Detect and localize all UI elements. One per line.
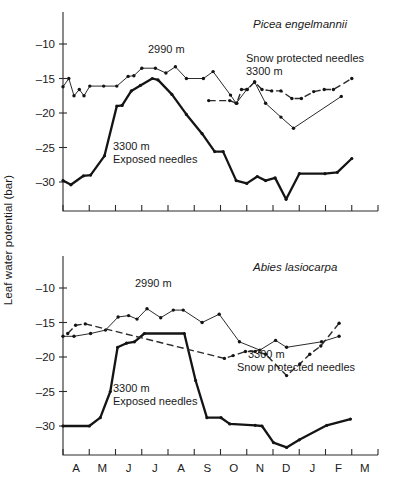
data-point-3 xyxy=(78,88,81,91)
data-point-5 xyxy=(125,342,128,345)
data-point-10 xyxy=(156,78,159,81)
y-tick-label-25: –25 xyxy=(36,386,55,398)
data-point-9 xyxy=(290,97,293,100)
x-axis-label-8: D xyxy=(282,462,290,474)
x-axis-label-6: O xyxy=(229,462,238,474)
data-point-22 xyxy=(279,115,282,118)
series-3300-m-snow-protected-needles xyxy=(207,77,353,105)
series-line xyxy=(63,67,341,128)
data-point-3 xyxy=(223,357,226,360)
data-point-4 xyxy=(246,88,249,91)
data-point-23 xyxy=(323,172,326,175)
data-point-16 xyxy=(285,346,288,349)
data-point-16 xyxy=(211,70,214,73)
data-point-12 xyxy=(185,113,188,116)
data-point-0 xyxy=(207,99,210,102)
annotation-snow-line2: Snow protected needles xyxy=(237,361,356,373)
y-axis-title-container: Leaf water potential (bar) xyxy=(0,140,24,340)
data-point-4 xyxy=(116,346,119,349)
data-point-18 xyxy=(325,424,328,427)
data-point-0 xyxy=(66,332,69,335)
series-line xyxy=(63,334,350,448)
data-point-15 xyxy=(272,441,275,444)
data-point-9 xyxy=(132,74,135,77)
data-point-0 xyxy=(61,179,64,182)
data-point-4 xyxy=(116,315,119,318)
data-point-8 xyxy=(279,89,282,92)
data-point-14 xyxy=(185,77,188,80)
y-tick-label-15: –15 xyxy=(36,317,55,329)
data-point-0 xyxy=(61,424,64,427)
data-point-13 xyxy=(174,65,177,68)
y-tick-label-10: –10 xyxy=(36,38,55,50)
data-point-25 xyxy=(350,157,353,160)
data-point-2 xyxy=(235,102,238,105)
data-point-14 xyxy=(260,424,263,427)
data-point-11 xyxy=(170,93,173,96)
data-point-2 xyxy=(82,174,85,177)
data-point-9 xyxy=(151,77,154,80)
data-point-15 xyxy=(222,150,225,153)
x-axis-label-3: J xyxy=(152,462,158,474)
data-point-3 xyxy=(109,390,112,393)
data-point-8 xyxy=(126,75,129,78)
data-point-9 xyxy=(194,379,197,382)
series-3300-m-exposed-needles xyxy=(61,77,353,201)
data-point-7 xyxy=(143,332,146,335)
x-axis-label-4: A xyxy=(177,462,185,474)
data-point-12 xyxy=(164,71,167,74)
data-point-3 xyxy=(89,174,92,177)
data-point-2 xyxy=(89,332,92,335)
data-point-12 xyxy=(228,422,231,425)
y-axis-title: Leaf water potential (bar) xyxy=(2,140,22,340)
data-point-11 xyxy=(312,90,315,93)
data-point-20 xyxy=(274,176,277,179)
figure-root: Leaf water potential (bar) –10–15–20–25–… xyxy=(0,0,410,478)
data-point-8 xyxy=(183,332,186,335)
y-tick-label-30: –30 xyxy=(36,176,55,188)
x-axis-label-5: S xyxy=(204,462,212,474)
data-point-10 xyxy=(140,67,143,70)
annotation-snow-line2: 3300 m xyxy=(246,65,283,77)
series-2990-m xyxy=(61,307,341,352)
y-tick-label-20: –20 xyxy=(36,107,55,119)
data-point-1 xyxy=(74,324,77,327)
data-point-1 xyxy=(72,335,75,338)
data-point-1 xyxy=(67,77,70,80)
data-point-14 xyxy=(213,150,216,153)
series-3300-m-exposed-needles xyxy=(61,332,352,449)
data-point-22 xyxy=(298,172,301,175)
x-axis-label-7: N xyxy=(256,462,264,474)
data-point-6 xyxy=(102,84,105,87)
axis-lines xyxy=(63,12,378,211)
data-point-15 xyxy=(274,339,277,342)
data-point-8 xyxy=(159,316,162,319)
data-point-21 xyxy=(264,102,267,105)
data-point-17 xyxy=(229,93,232,96)
data-point-6 xyxy=(121,104,124,107)
annotation-exposed-line2: Exposed needles xyxy=(113,153,198,165)
y-tick-label-10: –10 xyxy=(36,282,55,294)
data-point-15 xyxy=(202,77,205,80)
panel-title-picea: Picea engelmannii xyxy=(253,18,347,30)
data-point-16 xyxy=(235,179,238,182)
data-point-16 xyxy=(285,446,288,449)
data-point-2 xyxy=(99,416,102,419)
data-point-19 xyxy=(349,418,352,421)
data-point-7 xyxy=(270,89,273,92)
data-point-11 xyxy=(154,67,157,70)
data-point-12 xyxy=(218,313,221,316)
x-axis-label-1: M xyxy=(98,462,108,474)
data-point-6 xyxy=(260,88,263,91)
data-point-1 xyxy=(88,424,91,427)
data-point-14 xyxy=(350,77,353,80)
data-point-10 xyxy=(300,97,303,100)
x-axis-label-10: F xyxy=(335,462,342,474)
panel-abies: –10–15–20–25–30AMJJASONDJFMAbies lasioca… xyxy=(36,256,378,474)
data-point-4 xyxy=(82,94,85,97)
y-tick-label-20: –20 xyxy=(36,351,55,363)
data-point-17 xyxy=(245,182,248,185)
data-point-12 xyxy=(323,88,326,91)
y-tick-label-30: –30 xyxy=(36,420,55,432)
annotation-2990m: 2990 m xyxy=(135,277,172,289)
